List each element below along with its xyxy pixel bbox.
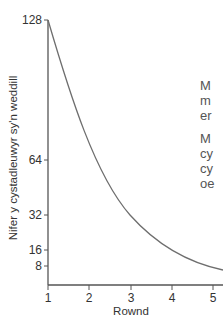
y-tick-label-64: 64 <box>29 153 43 167</box>
x-axis-title: Rownd <box>113 305 149 317</box>
side-text-line: cy <box>200 146 214 161</box>
y-tick-label-8: 8 <box>35 259 42 273</box>
y-axis-title: Nifer y cystadleuwyr sy'n weddill <box>7 76 19 241</box>
decay-curve <box>48 20 223 270</box>
x-tick-label-4: 4 <box>169 291 176 305</box>
side-text-block: M m er M cy cy oe <box>200 78 214 199</box>
x-tick-label-1: 1 <box>45 291 52 305</box>
y-tick-label-16: 16 <box>29 243 43 257</box>
x-tick-label-2: 2 <box>86 291 93 305</box>
y-tick-label-128: 128 <box>22 13 42 27</box>
x-ticks <box>48 285 213 290</box>
y-tick-label-32: 32 <box>29 208 43 222</box>
side-text-line: M <box>200 131 214 146</box>
x-tick-label-5: 5 <box>210 291 217 305</box>
line-chart: Nifer y cystadleuwyr sy'n weddill 128 64… <box>0 0 223 317</box>
side-paragraph-1: M m er <box>200 78 214 123</box>
side-text-line: oe <box>200 176 214 191</box>
side-paragraph-2: M cy cy oe <box>200 131 214 191</box>
side-text-line: M <box>200 78 214 93</box>
side-text-line: er <box>200 108 214 123</box>
side-text-line: cy <box>200 161 214 176</box>
x-tick-label-3: 3 <box>128 291 135 305</box>
side-text-line: m <box>200 93 214 108</box>
